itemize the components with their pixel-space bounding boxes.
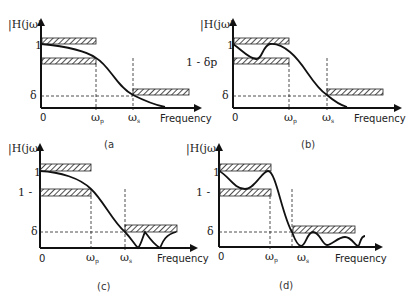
passband-upper-tolerance-bar xyxy=(42,38,96,44)
origin-label: 0 xyxy=(218,251,224,262)
panel-caption: (b) xyxy=(301,139,315,150)
passband-upper-tolerance-bar xyxy=(40,164,91,171)
magnitude-response-curve xyxy=(41,44,165,107)
y-axis-label: |H(jω' xyxy=(8,18,41,32)
panel-caption: (d) xyxy=(279,280,293,291)
panel-caption: (c) xyxy=(97,281,110,292)
origin-label: 0 xyxy=(40,112,46,123)
filter-specification-figure: |H(jω' 1 δ 0 ωp ωs Frequency (a |H(jω' 1… xyxy=(0,0,416,300)
x-axis-label: Frequency xyxy=(160,113,212,124)
omega-s-label: ωs xyxy=(128,111,140,124)
omega-p-label: ωp xyxy=(265,250,278,264)
passband-lower-tolerance-bar xyxy=(40,189,91,196)
passband-lower-tolerance-bar xyxy=(42,58,96,64)
panel-caption: (a xyxy=(104,139,114,150)
passband-lower-tolerance-bar xyxy=(234,58,289,64)
omega-p-label: ωp xyxy=(91,111,104,125)
x-axis-label: Frequency xyxy=(354,113,406,124)
delta-label: δ xyxy=(30,89,37,102)
delta-label: δ xyxy=(207,225,214,238)
omega-s-label: ωs xyxy=(120,251,132,264)
omega-s-label: ωs xyxy=(297,251,309,264)
one-label: 1 xyxy=(34,166,41,179)
passband-low-label: 1 - xyxy=(196,186,210,199)
x-axis-label: Frequency xyxy=(335,253,387,264)
panel-d: |H(jω 1 1 - δ 0 ωp ωs Frequency (d) xyxy=(186,142,387,291)
one-label: 1 xyxy=(227,39,234,52)
omega-s-label: ωs xyxy=(322,111,334,124)
one-label: 1 xyxy=(35,39,42,52)
delta-label: δ xyxy=(31,225,38,238)
panel-c: |H(jω 1 1 - δ 0 ωp ωs Frequency (c) xyxy=(8,142,209,292)
passband-upper-tolerance-bar xyxy=(234,38,289,44)
passband-low-label: 1 - xyxy=(18,186,32,199)
stopband-tolerance-bar xyxy=(125,225,177,232)
panel-b: |H(jω' 1 1 - δp δ 0 ωp ωs Frequency (b) xyxy=(186,18,406,150)
omega-p-label: ωp xyxy=(86,251,99,265)
passband-low-label: 1 - δp xyxy=(186,56,217,69)
omega-p-label: ωp xyxy=(284,111,297,125)
passband-upper-tolerance-bar xyxy=(220,164,271,171)
y-axis-label: |H(jω xyxy=(186,142,216,156)
stopband-tolerance-bar xyxy=(327,89,383,95)
one-label: 1 xyxy=(213,166,220,179)
y-axis-label: |H(jω' xyxy=(200,18,233,32)
panel-a: |H(jω' 1 δ 0 ωp ωs Frequency (a xyxy=(8,18,212,150)
stopband-tolerance-bar xyxy=(133,89,189,95)
stopband-tolerance-bar xyxy=(293,226,355,233)
delta-label: δ xyxy=(222,89,229,102)
x-axis-label: Frequency xyxy=(157,253,209,264)
passband-lower-tolerance-bar xyxy=(220,189,271,196)
magnitude-response-curve xyxy=(40,171,176,248)
origin-label: 0 xyxy=(232,112,238,123)
origin-label: 0 xyxy=(39,253,45,264)
y-axis-label: |H(jω xyxy=(8,142,38,156)
magnitude-response-curve xyxy=(233,44,347,107)
